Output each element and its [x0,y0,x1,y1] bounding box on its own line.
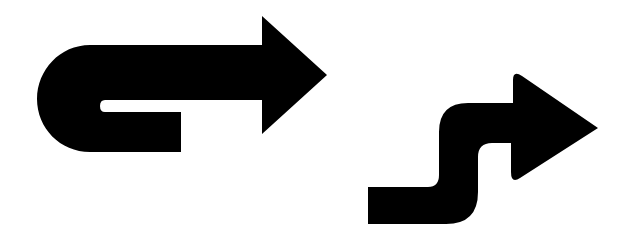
arrow-shapes [0,0,631,242]
s-curve-right-arrow-icon [368,74,598,224]
u-turn-right-arrow-icon [37,16,327,152]
arrow-figure: U-turn arrow pointing right S-curve arro… [0,0,631,242]
